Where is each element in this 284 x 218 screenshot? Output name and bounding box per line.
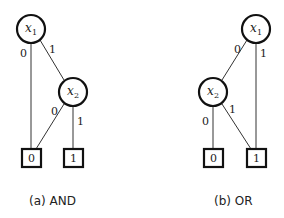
svg-text:x: x bbox=[67, 84, 74, 98]
node-or-x2: x 2 bbox=[199, 78, 227, 106]
svg-text:0: 0 bbox=[210, 152, 217, 165]
svg-text:2: 2 bbox=[74, 91, 79, 100]
svg-text:1: 1 bbox=[253, 152, 260, 165]
edge-label-or-x2-0: 0 bbox=[202, 115, 209, 128]
terminal-and-0: 0 bbox=[22, 149, 41, 167]
edge-label-or-x1-0: 0 bbox=[234, 43, 241, 56]
svg-text:1: 1 bbox=[32, 28, 37, 37]
edge-label-or-x1-1: 1 bbox=[260, 47, 267, 60]
node-or-x1: x 1 bbox=[242, 15, 270, 43]
edge-label-and-x2-1: 1 bbox=[77, 115, 84, 128]
caption-and: (a) AND bbox=[29, 194, 76, 208]
edge-label-and-x2-0: 0 bbox=[51, 105, 58, 118]
svg-text:x: x bbox=[25, 21, 32, 35]
terminal-and-1: 1 bbox=[64, 149, 83, 167]
diagram-or: 0 1 0 1 x 1 x 2 0 1 (b) OR bbox=[199, 15, 270, 208]
svg-text:0: 0 bbox=[28, 152, 35, 165]
svg-text:1: 1 bbox=[257, 28, 262, 37]
node-and-x2: x 2 bbox=[59, 78, 87, 106]
terminal-or-1: 1 bbox=[247, 149, 266, 167]
edge-label-and-x1-0: 0 bbox=[20, 47, 27, 60]
node-and-x1: x 1 bbox=[17, 15, 45, 43]
bdd-figure: 0 1 0 1 x 1 x 2 0 1 (a) AND bbox=[0, 0, 284, 218]
svg-text:1: 1 bbox=[70, 152, 77, 165]
caption-or: (b) OR bbox=[214, 194, 253, 208]
diagram-and: 0 1 0 1 x 1 x 2 0 1 (a) AND bbox=[17, 15, 87, 208]
edge-and-x2-to-0 bbox=[36, 104, 64, 149]
edge-or-x2-to-1 bbox=[222, 104, 251, 149]
edge-label-or-x2-1: 1 bbox=[229, 103, 236, 116]
terminal-or-0: 0 bbox=[204, 149, 223, 167]
svg-text:x: x bbox=[250, 21, 257, 35]
edge-label-and-x1-1: 1 bbox=[49, 43, 56, 56]
svg-text:x: x bbox=[207, 84, 214, 98]
svg-text:2: 2 bbox=[214, 91, 219, 100]
